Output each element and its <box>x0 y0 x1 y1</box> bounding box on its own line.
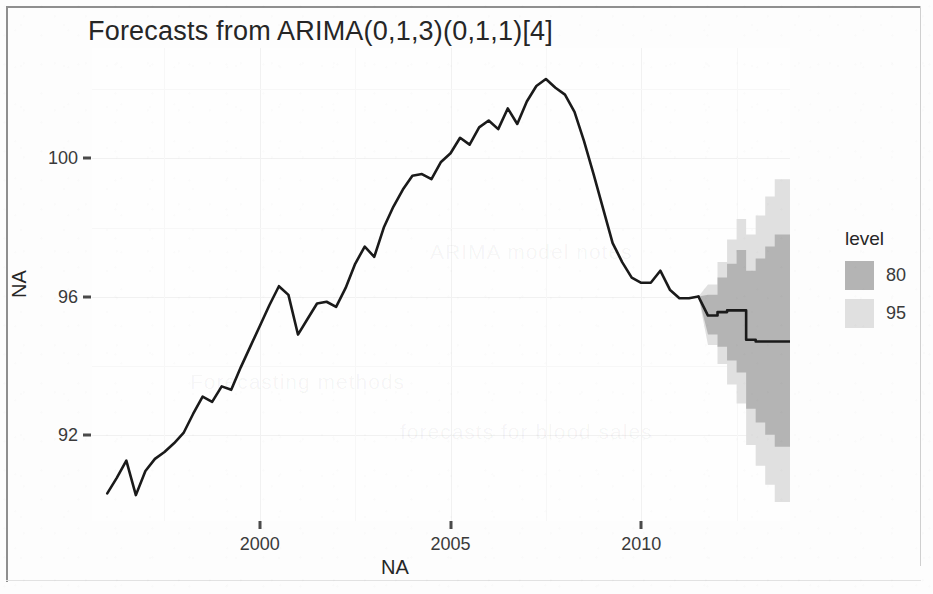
x-axis-tick-label: 2005 <box>431 534 471 555</box>
plot-panel <box>92 48 790 521</box>
page-border-top <box>6 6 921 8</box>
y-axis-tick-mark <box>83 433 91 436</box>
y-axis-tick-label: 92 <box>58 424 78 445</box>
x-axis-tick-mark <box>258 521 261 529</box>
y-axis-tick-label: 96 <box>58 286 78 307</box>
page-border-bottom <box>6 580 921 581</box>
forecast-chart-figure: Forecasts from ARIMA(0,1,3)(0,1,1)[4] 92… <box>0 0 933 594</box>
page-border-right <box>920 6 921 566</box>
legend-item[interactable]: 95 <box>845 299 906 328</box>
legend-item-label: 80 <box>886 265 906 286</box>
x-axis-tick-mark <box>640 521 643 529</box>
y-axis-tick-mark <box>83 157 91 160</box>
page-title: Forecasts from ARIMA(0,1,3)(0,1,1)[4] <box>88 16 553 47</box>
y-axis-label: NA <box>8 270 31 298</box>
y-axis-tick-mark <box>83 295 91 298</box>
x-axis-tick-mark <box>449 521 452 529</box>
legend-swatch <box>845 299 874 328</box>
legend-item-label: 95 <box>886 303 906 324</box>
y-axis-tick-label: 100 <box>48 148 78 169</box>
legend-items: 8095 <box>845 261 906 328</box>
x-axis-label: NA <box>0 556 790 579</box>
legend-swatch <box>845 261 874 290</box>
legend-item[interactable]: 80 <box>845 261 906 290</box>
legend: level 8095 <box>845 228 906 337</box>
plot-series-svg <box>92 48 790 521</box>
x-axis-tick-label: 2000 <box>240 534 280 555</box>
legend-title: level <box>845 228 906 250</box>
x-axis-tick-label: 2010 <box>621 534 661 555</box>
observed-series-line <box>107 79 698 495</box>
